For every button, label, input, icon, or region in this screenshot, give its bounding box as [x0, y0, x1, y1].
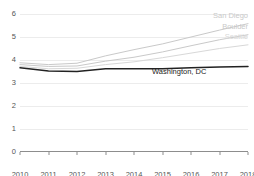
- x-axis-tick-label: 2011: [40, 170, 56, 176]
- series-lines: [20, 14, 248, 152]
- x-axis-tick-mark: [77, 152, 78, 155]
- y-axis-tick-label: 2: [12, 102, 16, 110]
- x-axis-tick-label: 2013: [97, 170, 114, 176]
- x-axis-tick-label: 2015: [154, 170, 171, 176]
- line-chart: 0123456 20102011201220132014201520162017…: [0, 0, 254, 176]
- x-axis-tick-label: 2012: [69, 170, 86, 176]
- x-axis-tick-mark: [162, 152, 163, 155]
- x-axis-tick-mark: [219, 152, 220, 155]
- series-label-boulder: Boulder: [222, 23, 248, 31]
- x-axis-tick-label: 2014: [126, 170, 143, 176]
- x-axis-tick-mark: [20, 152, 21, 155]
- x-axis-tick-label: 2010: [12, 170, 29, 176]
- x-axis-tick-mark: [105, 152, 106, 155]
- plot-area: 0123456 20102011201220132014201520162017…: [20, 14, 248, 152]
- x-axis-tick-mark: [134, 152, 135, 155]
- y-axis-tick-label: 4: [12, 56, 16, 64]
- x-axis-tick-mark: [248, 152, 249, 155]
- chart-title: [4, 0, 184, 4]
- y-axis-tick-label: 5: [12, 33, 16, 41]
- series-label-san-diego: San Diego: [213, 12, 248, 20]
- series-label-seattle: Seattle: [225, 33, 248, 41]
- y-axis-tick-label: 0: [12, 148, 16, 156]
- series-line: [20, 24, 248, 65]
- x-axis-tick-label: 2018: [240, 170, 254, 176]
- x-axis-tick-mark: [48, 152, 49, 155]
- x-axis-tick-mark: [191, 152, 192, 155]
- y-axis-tick-label: 1: [12, 125, 16, 133]
- x-axis-tick-label: 2017: [211, 170, 228, 176]
- y-axis-tick-label: 6: [12, 10, 16, 18]
- y-axis-tick-label: 3: [12, 79, 16, 87]
- series-label-washington-dc: Washington, DC: [152, 68, 206, 76]
- x-axis-tick-label: 2016: [183, 170, 200, 176]
